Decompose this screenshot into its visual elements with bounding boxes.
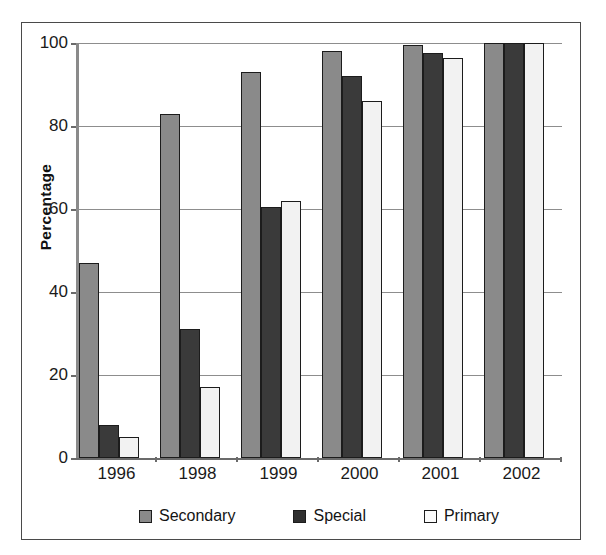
bar-group-2001 [400,43,481,458]
bar-primary-2001 [443,58,463,458]
y-tick-label-20: 20 [24,365,68,385]
gridline-0 [76,458,562,460]
bar-secondary-2001 [403,45,423,458]
x-tick-label-1996: 1996 [76,464,157,484]
bar-group-2000 [319,43,400,458]
plot-wrapper: Percentage 020406080100 1996199819992000… [22,23,582,541]
bar-primary-2000 [362,101,382,458]
bar-primary-2002 [524,43,544,458]
bar-primary-1996 [119,437,139,458]
x-tick-label-1998: 1998 [157,464,238,484]
bar-primary-1998 [200,387,220,458]
chart-legend: SecondarySpecialPrimary [76,504,562,528]
bar-special-2002 [504,43,524,458]
bar-special-2001 [423,53,443,458]
y-tick-label-0: 0 [24,448,68,468]
legend-item-primary[interactable]: Primary [424,507,499,525]
bar-group-2002 [481,43,562,458]
legend-item-special[interactable]: Special [293,507,365,525]
y-tick-label-80: 80 [24,116,68,136]
legend-swatch-special [293,510,306,523]
bar-group-1996 [76,43,157,458]
bar-secondary-1999 [241,72,261,458]
plot-area [76,43,562,458]
bar-secondary-1998 [160,114,180,458]
legend-item-secondary[interactable]: Secondary [139,507,236,525]
bar-secondary-2000 [322,51,342,458]
legend-label-primary: Primary [444,507,499,525]
x-tick-2002 [560,457,562,462]
bar-group-1998 [157,43,238,458]
x-tick-label-2001: 2001 [400,464,481,484]
x-axis-tick-labels: 199619981999200020012002 [76,464,562,490]
bar-special-2000 [342,76,362,458]
chart-frame: Percentage 020406080100 1996199819992000… [21,22,581,540]
y-tick-label-100: 100 [24,33,68,53]
legend-label-secondary: Secondary [159,507,236,525]
bar-primary-1999 [281,201,301,458]
y-tick-label-40: 40 [24,282,68,302]
bar-special-1996 [99,425,119,458]
x-tick-label-1999: 1999 [238,464,319,484]
x-tick-label-2002: 2002 [481,464,562,484]
y-axis-tick-labels: 020406080100 [22,43,68,459]
bar-special-1999 [261,207,281,458]
bar-secondary-2002 [484,43,504,458]
bar-secondary-1996 [79,263,99,458]
legend-swatch-secondary [139,510,152,523]
x-tick-label-2000: 2000 [319,464,400,484]
page-canvas: Percentage 020406080100 1996199819992000… [0,0,606,555]
bar-special-1998 [180,329,200,458]
y-tick-label-60: 60 [24,199,68,219]
bar-group-1999 [238,43,319,458]
legend-swatch-primary [424,510,437,523]
legend-label-special: Special [313,507,365,525]
